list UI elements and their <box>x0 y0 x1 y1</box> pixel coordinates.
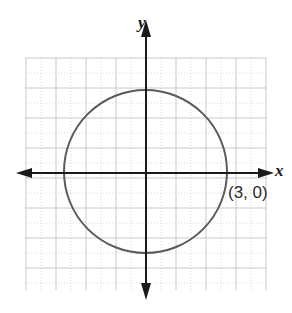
y-axis-down-arrowhead <box>141 283 151 300</box>
point-label-3-0: (3, 0) <box>228 184 268 201</box>
circle-graph-figure: y x (3, 0) <box>0 0 292 313</box>
x-axis-left-arrowhead <box>16 168 32 178</box>
axes-layer <box>16 20 274 300</box>
coordinate-plane-svg <box>0 0 292 313</box>
x-axis-label: x <box>275 162 284 179</box>
y-axis-label: y <box>138 14 146 31</box>
